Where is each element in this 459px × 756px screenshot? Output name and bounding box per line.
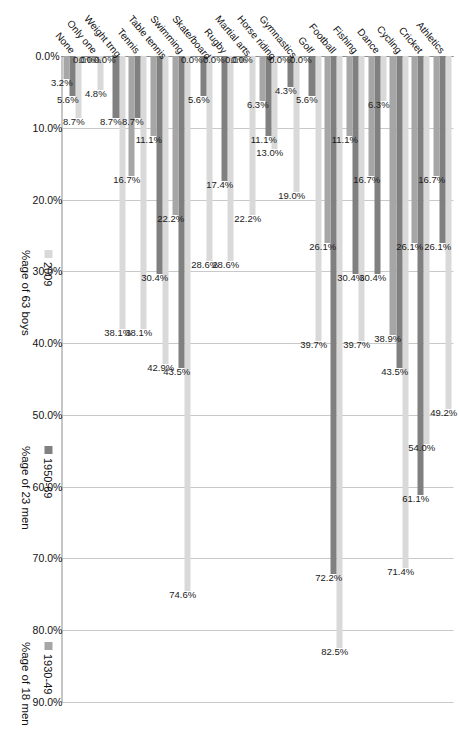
bar-group bbox=[63, 56, 81, 702]
bar-1930-49 bbox=[433, 56, 439, 176]
data-label: 26.1% bbox=[309, 243, 336, 253]
bar-1930-49 bbox=[411, 56, 417, 243]
bar-2009 bbox=[184, 56, 190, 591]
data-label: 11.1% bbox=[331, 135, 357, 145]
data-label: 54.0% bbox=[408, 443, 435, 453]
bar-group bbox=[172, 56, 190, 702]
data-label: 4.8% bbox=[84, 90, 106, 100]
data-label: 0.0% bbox=[72, 55, 94, 65]
data-label: 30.4% bbox=[337, 273, 364, 283]
bar-1950-69 bbox=[265, 56, 271, 136]
legend-swatch bbox=[44, 250, 52, 258]
bar-2009 bbox=[445, 56, 451, 409]
legend-label: 1930-49 bbox=[42, 654, 54, 694]
bar-2009 bbox=[140, 56, 146, 329]
bar-group bbox=[128, 56, 146, 702]
axis-tick-label: 0.0% bbox=[35, 50, 59, 62]
bar-1950-69 bbox=[178, 56, 184, 368]
data-label: 3.2% bbox=[50, 78, 72, 88]
data-label: 0.0% bbox=[181, 55, 203, 65]
data-label: 38.1% bbox=[103, 329, 130, 339]
data-label: 5.6% bbox=[296, 95, 318, 105]
bar-1950-69 bbox=[374, 56, 380, 274]
bar-2009 bbox=[75, 56, 81, 118]
bar-group bbox=[302, 56, 320, 702]
bar-1950-69 bbox=[112, 56, 118, 118]
rotated-chart-wrapper: 49.2%26.1%16.7%54.0%61.1%26.1%71.4%43.5%… bbox=[0, 0, 459, 756]
data-label: 8.7% bbox=[100, 118, 122, 128]
data-label: 16.7% bbox=[113, 175, 140, 185]
bar-group bbox=[215, 56, 233, 702]
legend-entry-2009[interactable]: 2009 bbox=[42, 250, 55, 286]
bar-group bbox=[324, 56, 342, 702]
legend-sublabel: %age of 23 men bbox=[19, 446, 31, 530]
bar-1950-69 bbox=[439, 56, 445, 243]
bar-group bbox=[193, 56, 211, 702]
data-label: 4.3% bbox=[274, 86, 296, 96]
data-label: 5.6% bbox=[187, 95, 209, 105]
data-label: 19.0% bbox=[278, 192, 305, 202]
data-label: 39.7% bbox=[343, 340, 370, 350]
bar-2009 bbox=[402, 56, 408, 568]
bar-1950-69 bbox=[156, 56, 162, 274]
bar-2009 bbox=[119, 56, 125, 329]
bar-group bbox=[281, 56, 299, 702]
axis-tick-label: 90.0% bbox=[32, 696, 62, 708]
bar-1930-49 bbox=[346, 56, 352, 136]
bar-group bbox=[368, 56, 386, 702]
data-label: 22.2% bbox=[156, 215, 183, 225]
bar-1930-49 bbox=[150, 56, 156, 136]
bar-1930-49 bbox=[389, 56, 395, 335]
bar-2009 bbox=[293, 56, 299, 192]
legend-entry-1930-49[interactable]: 1930-49 bbox=[42, 642, 55, 694]
bar-1930-49 bbox=[172, 56, 178, 215]
data-label: 13.0% bbox=[256, 149, 283, 159]
data-label: 61.1% bbox=[402, 494, 429, 504]
bar-1930-49 bbox=[368, 56, 374, 176]
legend-label: 2009 bbox=[42, 262, 54, 286]
bar-chart: 49.2%26.1%16.7%54.0%61.1%26.1%71.4%43.5%… bbox=[0, 0, 459, 756]
bar-group bbox=[389, 56, 407, 702]
bar-1930-49 bbox=[259, 56, 265, 101]
bar-1950-69 bbox=[396, 56, 402, 368]
axis-tick-label: 10.0% bbox=[32, 122, 62, 134]
data-label: 26.1% bbox=[424, 243, 451, 253]
data-label: 8.7% bbox=[62, 118, 84, 128]
legend-swatch bbox=[44, 446, 52, 454]
bar-1950-69 bbox=[134, 56, 140, 118]
bar-group bbox=[106, 56, 124, 702]
bar-1930-49 bbox=[324, 56, 330, 243]
bar-group bbox=[237, 56, 255, 702]
data-label: 82.5% bbox=[321, 647, 348, 657]
bar-1950-69 bbox=[417, 56, 423, 495]
data-label: 28.6% bbox=[190, 261, 217, 271]
legend-label: 1950-69 bbox=[42, 458, 54, 498]
bar-group bbox=[150, 56, 168, 702]
data-label: 42.9% bbox=[147, 363, 174, 373]
axis-tick-label: 20.0% bbox=[32, 194, 62, 206]
bar-1930-49 bbox=[63, 56, 69, 79]
bar-1950-69 bbox=[221, 56, 227, 181]
data-label: 71.4% bbox=[386, 568, 413, 578]
data-label: 39.7% bbox=[299, 340, 326, 350]
bar-2009 bbox=[162, 56, 168, 364]
data-label: 74.6% bbox=[169, 591, 196, 601]
chart-legend: 2009%age of 63 boys1950-69%age of 23 men… bbox=[3, 250, 55, 670]
bar-2009 bbox=[358, 56, 364, 341]
data-label: 43.5% bbox=[380, 367, 407, 377]
data-label: 30.4% bbox=[141, 273, 168, 283]
bar-1950-69 bbox=[352, 56, 358, 274]
bar-group bbox=[433, 56, 451, 702]
data-label: 8.7% bbox=[122, 118, 144, 128]
legend-swatch bbox=[44, 642, 52, 650]
data-label: 49.2% bbox=[430, 408, 457, 418]
bar-2009 bbox=[380, 56, 386, 101]
data-label: 6.3% bbox=[367, 100, 389, 110]
legend-entry-1950-69[interactable]: 1950-69 bbox=[42, 446, 55, 498]
legend-sublabel: %age of 63 boys bbox=[19, 250, 31, 336]
bar-2009 bbox=[227, 56, 233, 261]
data-label: 72.2% bbox=[315, 573, 342, 583]
data-label: 26.1% bbox=[396, 243, 423, 253]
data-label: 16.7% bbox=[352, 175, 379, 185]
data-label: 17.4% bbox=[206, 180, 233, 190]
